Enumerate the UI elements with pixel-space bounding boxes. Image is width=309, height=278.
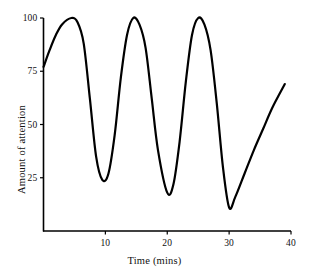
axes-group — [40, 18, 291, 235]
chart-plot-area — [0, 0, 309, 278]
y-tick-label: 50 — [28, 120, 38, 130]
x-axis-title: Time (mins) — [0, 255, 309, 266]
y-axis-title: Amount of attention — [16, 105, 27, 194]
attention-over-time-chart: 255075100 10203040 Time (mins) Amount of… — [0, 0, 309, 278]
attention-curve — [44, 17, 285, 208]
x-tick-label: 40 — [286, 238, 296, 248]
y-tick-label: 75 — [28, 66, 38, 76]
x-tick-label: 30 — [224, 238, 234, 248]
y-tick-label: 25 — [28, 173, 38, 183]
x-tick-label: 20 — [162, 238, 172, 248]
x-tick-label: 10 — [100, 238, 110, 248]
y-tick-label: 100 — [23, 13, 38, 23]
